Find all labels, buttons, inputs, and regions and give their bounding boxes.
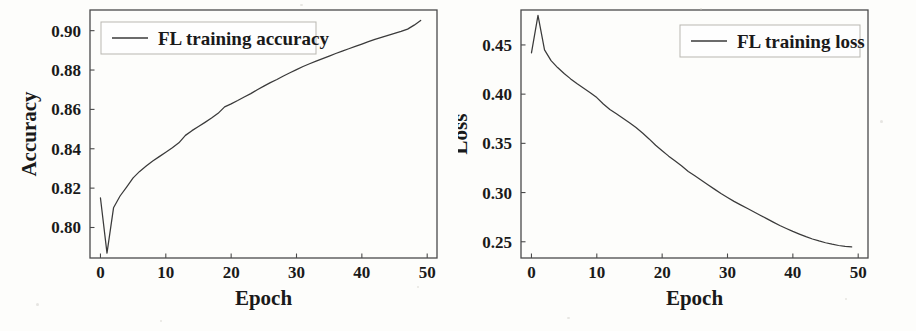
x-tick-label: 20 xyxy=(654,263,671,282)
scan-speck xyxy=(880,120,883,123)
y-tick-label: 0.84 xyxy=(51,140,81,159)
x-tick-label: 40 xyxy=(784,263,801,282)
scan-speck xyxy=(700,8,702,10)
x-tick-label: 40 xyxy=(353,263,370,282)
loss-plot: 010203040500.250.300.350.400.45EpochLoss… xyxy=(458,0,916,331)
y-tick-label: 0.80 xyxy=(51,218,81,237)
legend-label: FL training loss xyxy=(737,31,865,52)
data-series-line xyxy=(100,20,420,253)
y-tick-label: 0.90 xyxy=(51,22,81,41)
x-tick-label: 50 xyxy=(419,263,436,282)
loss-chart-panel: 010203040500.250.300.350.400.45EpochLoss… xyxy=(458,0,916,331)
y-tick-label: 0.40 xyxy=(482,85,512,104)
y-tick-label: 0.35 xyxy=(482,134,512,153)
y-tick-label: 0.82 xyxy=(51,179,81,198)
scan-speck xyxy=(845,298,847,300)
x-tick-label: 10 xyxy=(588,263,605,282)
y-tick-label: 0.86 xyxy=(51,100,81,119)
y-tick-label: 0.45 xyxy=(482,36,512,55)
x-tick-label: 30 xyxy=(719,263,736,282)
scan-speck xyxy=(36,303,39,306)
y-tick-label: 0.88 xyxy=(51,61,81,80)
scan-speck xyxy=(160,320,162,322)
scan-speck xyxy=(300,4,303,6)
x-tick-label: 20 xyxy=(223,263,240,282)
x-axis-label: Epoch xyxy=(666,286,724,310)
scan-speck xyxy=(567,317,570,319)
x-tick-label: 0 xyxy=(527,263,536,282)
y-axis-label: Loss xyxy=(458,114,472,155)
x-tick-label: 50 xyxy=(850,263,867,282)
y-tick-label: 0.25 xyxy=(482,233,512,252)
x-axis-label: Epoch xyxy=(235,286,293,310)
scan-speck xyxy=(417,286,419,288)
x-tick-label: 30 xyxy=(288,263,305,282)
x-tick-label: 0 xyxy=(96,263,105,282)
accuracy-chart-panel: 010203040500.800.820.840.860.880.90Epoch… xyxy=(0,0,458,331)
accuracy-plot: 010203040500.800.820.840.860.880.90Epoch… xyxy=(0,0,458,331)
x-tick-label: 10 xyxy=(157,263,174,282)
legend-label: FL training accuracy xyxy=(158,28,329,49)
y-axis-label: Accuracy xyxy=(17,91,41,177)
figure-page: 010203040500.800.820.840.860.880.90Epoch… xyxy=(0,0,916,331)
y-tick-label: 0.30 xyxy=(482,184,512,203)
